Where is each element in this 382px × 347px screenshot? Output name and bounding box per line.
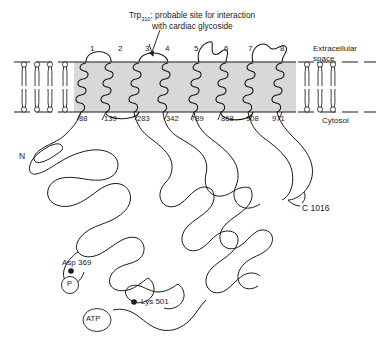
trp-310-prefix: Trp (129, 10, 141, 20)
extracellular-loops (86, 42, 287, 62)
cytosolic-domain-chain (29, 112, 312, 331)
helix-number-1: 1 (90, 44, 94, 53)
cytosolic-meander-a (48, 153, 118, 207)
cytosol-label: Cytosol (322, 116, 349, 125)
phospholipid (47, 89, 52, 112)
cytosolic-lower-a (206, 231, 238, 288)
helix-number-5: 5 (194, 44, 198, 53)
lys-501-marker (131, 299, 137, 305)
residue-number-908: 908 (246, 115, 259, 124)
phospholipid (34, 89, 39, 112)
n-terminal-segment (30, 112, 81, 165)
cytosolic-lower-c (208, 273, 260, 293)
cytosolic-right-g (205, 174, 250, 196)
phospholipid (62, 89, 67, 112)
residue-number-789: 789 (191, 115, 204, 124)
extracellular-space-label-line2: space (313, 54, 334, 63)
helix-number-6: 6 (224, 44, 228, 53)
asp-loop (110, 278, 148, 291)
phospholipid (21, 89, 26, 112)
helix-number-2: 2 (118, 44, 122, 53)
cytosolic-right-l (222, 232, 256, 249)
phospholipid (21, 62, 26, 86)
cytosolic-right-f (160, 182, 212, 207)
atp-badge-label: ATP (86, 315, 100, 324)
residue-number-283: 283 (137, 115, 150, 124)
phospholipid (34, 62, 39, 86)
helix-number-8: 8 (280, 44, 284, 53)
phosphate-badge-label: P (67, 280, 72, 289)
phospholipid (330, 62, 335, 86)
trp-310-leader-line (152, 30, 160, 52)
phospholipid (47, 62, 52, 86)
helix-number-7: 7 (248, 44, 252, 53)
cytosolic-meander-b (70, 183, 131, 232)
helix-number-3: 3 (145, 44, 149, 53)
n-terminus-label: N (19, 152, 25, 162)
lys-501-label: Lys 501 (141, 297, 169, 306)
residue-number-868: 868 (221, 115, 234, 124)
phospholipid-group-left (21, 62, 67, 112)
residue-number-342: 342 (166, 115, 179, 124)
cytosolic-right-j (220, 188, 252, 244)
phospholipid (317, 62, 322, 86)
c-terminus-label: C 1016 (302, 204, 329, 214)
asp-369-label: Asp 369 (62, 258, 91, 267)
asp-branch (109, 242, 144, 284)
extracellular-space-label-line1: Extracellular (313, 44, 357, 53)
residue-number-88: 88 (79, 115, 87, 124)
asp-369-marker (68, 268, 74, 274)
residue-number-139: 139 (104, 115, 117, 124)
cytosolic-right-k (184, 234, 218, 251)
phospholipid (62, 62, 67, 86)
cytosolic-lower-b (244, 230, 273, 264)
trp-310-suffix: : probable site for interaction (150, 10, 255, 20)
cytosolic-right-d (248, 112, 293, 200)
phospholipid (317, 89, 322, 112)
residue-number-971: 971 (272, 115, 285, 124)
diagram-page: Trp310: probable site for interaction wi… (0, 0, 382, 347)
phospholipid (330, 89, 335, 112)
loop-3-4 (139, 53, 168, 62)
trp-310-caption-line2: with cardiac glycoside (152, 22, 233, 32)
helix-number-4: 4 (165, 44, 169, 53)
cytosolic-right-e (277, 112, 313, 200)
cytosolic-meander-c (76, 232, 142, 257)
